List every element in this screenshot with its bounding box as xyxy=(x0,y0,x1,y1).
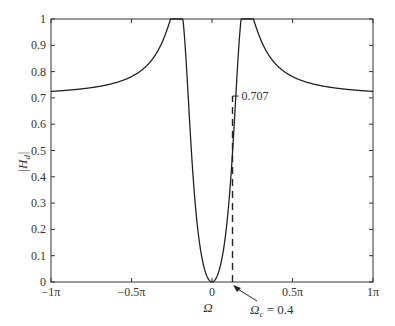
x-tick-label: −0.5π xyxy=(118,285,146,299)
x-tick-label: −1π xyxy=(42,285,61,299)
annotation-arrow-line xyxy=(236,288,257,301)
y-tick-label: 0.7 xyxy=(31,91,46,105)
y-tick-label: 0.1 xyxy=(31,249,46,263)
y-tick-label: 1 xyxy=(40,12,46,26)
x-tick-label: 1π xyxy=(367,285,379,299)
y-tick-label: 0.6 xyxy=(31,117,46,131)
y-tick-label: 0.2 xyxy=(31,222,46,236)
line-chart: 00.10.20.30.40.50.60.70.80.91 −1π−0.5π00… xyxy=(0,0,395,326)
chart-figure: 00.10.20.30.40.50.60.70.80.91 −1π−0.5π00… xyxy=(0,0,395,326)
magnitude-curve xyxy=(51,19,373,282)
x-axis-ticks: −1π−0.5π00.5π1π xyxy=(42,19,379,299)
x-tick-label: 0.5π xyxy=(282,285,303,299)
x-axis-label: Ω xyxy=(203,300,212,315)
cutoff-label: Ωc = 0.4 xyxy=(250,302,294,319)
y-tick-label: 0.3 xyxy=(31,196,46,210)
y-tick-label: 0.8 xyxy=(31,65,46,79)
y-axis-ticks: 00.10.20.30.40.50.60.70.80.91 xyxy=(31,12,373,289)
x-tick-label: 0 xyxy=(209,285,215,299)
y-axis-label: |Hd| xyxy=(15,151,32,172)
arrow-head-icon xyxy=(233,285,241,292)
axes-box xyxy=(51,19,373,282)
y-tick-label: 0.9 xyxy=(31,38,46,52)
y-tick-label: 0.5 xyxy=(31,144,46,158)
y-tick-label: 0.4 xyxy=(31,170,46,184)
marker-value-label: 0.707 xyxy=(241,89,268,103)
